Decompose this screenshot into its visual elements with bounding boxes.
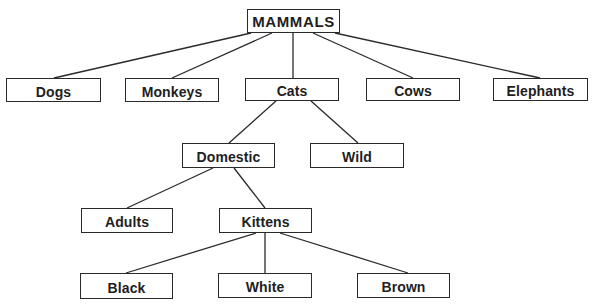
- node-domestic: Domestic: [182, 143, 275, 168]
- node-label: Domestic: [197, 149, 261, 165]
- edge-mammals-to-elephants: [335, 33, 540, 78]
- edge-mammals-to-monkeys: [172, 33, 272, 78]
- edge-cats-to-wild: [311, 101, 358, 143]
- node-label: Dogs: [36, 84, 71, 100]
- node-elephants: Elephants: [493, 78, 588, 101]
- edge-kittens-to-brown: [280, 233, 408, 273]
- mammals-hierarchy-diagram: MAMMALS Dogs Monkeys Cats Cows Elephants…: [0, 0, 594, 306]
- node-cats: Cats: [245, 78, 339, 101]
- node-label: Adults: [105, 214, 149, 230]
- node-kittens: Kittens: [219, 208, 312, 233]
- node-label: Kittens: [241, 214, 289, 230]
- node-wild: Wild: [310, 143, 404, 168]
- edge-mammals-to-dogs: [54, 33, 251, 78]
- node-label: MAMMALS: [252, 13, 335, 30]
- node-label: Monkeys: [142, 84, 203, 100]
- node-black: Black: [80, 273, 173, 299]
- node-label: Elephants: [507, 83, 575, 99]
- node-adults: Adults: [81, 208, 173, 233]
- node-label: Wild: [342, 149, 372, 165]
- edge-kittens-to-black: [126, 233, 256, 273]
- edge-domestic-to-kittens: [234, 168, 265, 208]
- node-label: Black: [108, 280, 146, 296]
- node-cows: Cows: [366, 78, 460, 101]
- node-label: Cows: [394, 83, 432, 99]
- connector-lines: [0, 0, 594, 306]
- node-monkeys: Monkeys: [125, 78, 219, 102]
- node-label: White: [246, 279, 285, 295]
- edge-cats-to-domestic: [229, 101, 276, 143]
- node-dogs: Dogs: [6, 78, 101, 102]
- node-brown: Brown: [357, 273, 450, 298]
- node-mammals: MAMMALS: [247, 9, 340, 33]
- edge-mammals-to-cows: [313, 33, 413, 78]
- node-white: White: [218, 273, 312, 298]
- node-label: Cats: [277, 83, 308, 99]
- node-label: Brown: [381, 279, 425, 295]
- edge-domestic-to-adults: [127, 168, 213, 208]
